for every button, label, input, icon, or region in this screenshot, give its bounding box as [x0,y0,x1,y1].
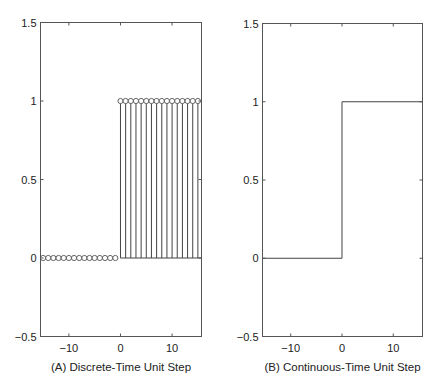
stem-marker [97,255,102,260]
tick-labels: −10010−0.500.511.5 [15,17,178,354]
stem-marker [46,255,51,260]
stem-marker [190,98,195,103]
stem-marker [56,255,61,260]
stem-marker [149,98,154,103]
stem-marker [175,98,180,103]
y-tick-label: 1 [252,96,258,108]
x-tick-label: 0 [339,342,345,354]
y-tick-label: 1.5 [21,17,36,29]
panel-caption: (A) Discrete-Time Unit Step [51,361,191,373]
figure: −10010−0.500.511.5 (A) Discrete-Time Uni… [0,0,441,387]
stem-series [40,98,201,260]
stem-marker [185,98,190,103]
y-tick-label: 0.5 [243,174,258,186]
y-tick-label: 0 [252,252,258,264]
y-tick-label: 1.5 [243,18,258,30]
stem-marker [133,98,138,103]
y-tick-label: −0.5 [15,331,37,343]
step-line-series [263,102,423,259]
step-line [263,102,423,259]
stem-marker [92,255,97,260]
x-tick-label: 10 [387,342,399,354]
stem-marker [113,255,118,260]
stem-marker [61,255,66,260]
x-tick-label: −10 [281,342,300,354]
y-tick-label: −0.5 [237,331,259,343]
stem-marker [118,98,123,103]
x-tick-label: 0 [117,342,123,354]
x-tick-label: 10 [166,342,178,354]
stem-marker [77,255,82,260]
axes-frame [263,24,423,337]
tick-labels: −10010−0.500.511.5 [237,18,400,354]
stem-marker [159,98,164,103]
stem-marker [128,98,133,103]
y-tick-label: 0 [30,252,36,264]
plot-discrete-time-unit-step: −10010−0.500.511.5 (A) Discrete-Time Uni… [15,17,202,373]
plot-continuous-time-unit-step: −10010−0.500.511.5 (B) Continuous-Time U… [237,18,423,373]
y-tick-label: 0.5 [21,174,36,186]
stem-marker [164,98,169,103]
stem-marker [82,255,87,260]
stem-marker [123,98,128,103]
stem-marker [71,255,76,260]
stem-marker [139,98,144,103]
stem-marker [169,98,174,103]
x-tick-label: −10 [60,342,79,354]
stem-marker [144,98,149,103]
stem-marker [102,255,107,260]
stem-marker [154,98,159,103]
panel-caption: (B) Continuous-Time Unit Step [264,361,420,373]
stem-marker [108,255,113,260]
y-tick-label: 1 [30,95,36,107]
stem-marker [66,255,71,260]
stem-marker [180,98,185,103]
stem-marker [87,255,92,260]
axis-ticks [263,24,423,337]
stem-marker [51,255,56,260]
